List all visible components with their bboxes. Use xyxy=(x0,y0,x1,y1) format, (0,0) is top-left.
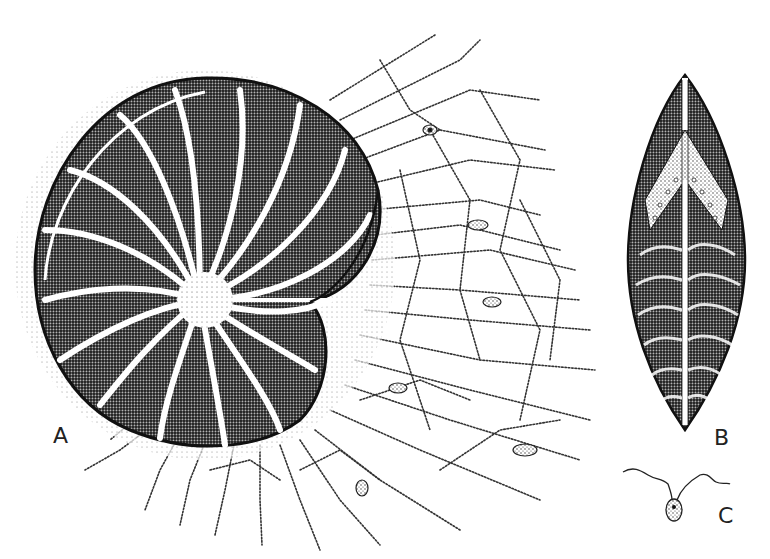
panel-label-b: B xyxy=(714,425,729,450)
illustration-plate xyxy=(0,0,770,559)
spindle-cell xyxy=(628,75,745,430)
flagellate-cell xyxy=(623,469,730,521)
panel-label-c: C xyxy=(718,503,733,528)
panel-label-a: A xyxy=(53,423,68,448)
